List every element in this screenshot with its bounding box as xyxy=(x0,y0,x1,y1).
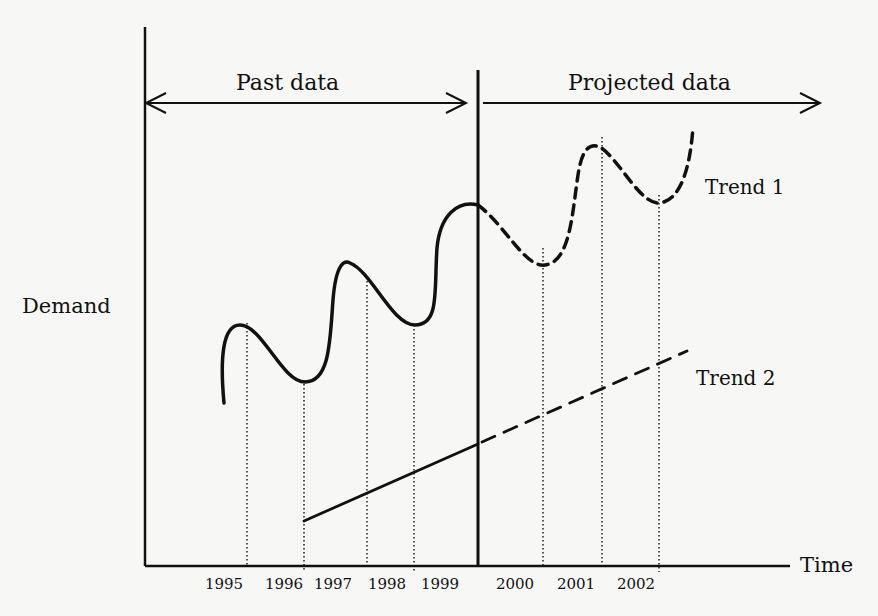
tick-2002: 2002 xyxy=(617,575,655,593)
x-axis-label: Time xyxy=(800,553,853,577)
past-data-arrow xyxy=(146,93,466,113)
tick-1997: 1997 xyxy=(314,575,352,593)
year-guide-lines xyxy=(247,137,659,572)
demand-projection-diagram: Past data Projected data Demand Time Tre… xyxy=(0,0,878,616)
past-demand-curve xyxy=(222,204,478,403)
tick-2000: 2000 xyxy=(496,575,534,593)
diagram-canvas xyxy=(0,0,878,616)
tick-2001: 2001 xyxy=(557,575,595,593)
projected-data-label: Projected data xyxy=(568,70,731,95)
trend-1-label: Trend 1 xyxy=(705,175,785,199)
tick-1995: 1995 xyxy=(205,575,243,593)
trend-2-projected-line xyxy=(482,351,687,442)
past-data-label: Past data xyxy=(236,70,339,95)
tick-1999: 1999 xyxy=(421,575,459,593)
trend-2-label: Trend 2 xyxy=(696,366,776,390)
trend-1-curve xyxy=(478,127,693,265)
trend-2-past-line xyxy=(304,444,478,521)
y-axis-label: Demand xyxy=(22,294,111,318)
projected-data-arrow xyxy=(483,93,820,113)
tick-1996: 1996 xyxy=(265,575,303,593)
tick-1998: 1998 xyxy=(368,575,406,593)
